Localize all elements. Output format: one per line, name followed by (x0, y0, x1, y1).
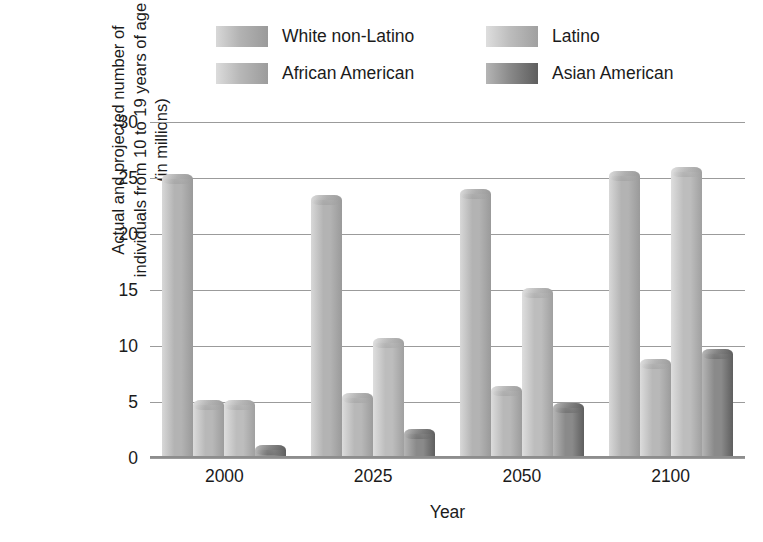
bar-cap-shading (609, 171, 640, 181)
legend-label-white-non-latino: White non-Latino (282, 28, 414, 46)
bar-body (640, 364, 671, 458)
bar[interactable] (640, 359, 671, 458)
bar[interactable] (311, 195, 342, 458)
bar-body (491, 391, 522, 458)
y-tick-label-25: 25 (119, 168, 138, 189)
bar[interactable] (193, 400, 224, 458)
bars-layer (150, 122, 745, 458)
plot-area (150, 122, 745, 458)
bar[interactable] (460, 189, 491, 458)
bar-body (224, 405, 255, 458)
bar-group-2100 (609, 122, 733, 458)
bar-body (311, 200, 342, 458)
bar[interactable] (522, 288, 553, 458)
chart-legend: White non-Latino Latino African American… (216, 18, 716, 92)
bar[interactable] (671, 167, 702, 458)
legend-swatch-white-non-latino (216, 26, 268, 47)
bar[interactable] (609, 171, 640, 458)
bar-cap-shading (640, 359, 671, 369)
legend-item-white-non-latino: White non-Latino (216, 26, 486, 47)
x-axis-tick-labels: 2000202520502100 (150, 466, 745, 496)
legend-item-latino: Latino (486, 26, 716, 47)
y-tick-label-5: 5 (128, 392, 138, 413)
bar-cap-shading (671, 167, 702, 177)
legend-label-asian-american: Asian American (552, 65, 674, 83)
legend-item-asian-american: Asian American (486, 63, 716, 84)
bar-cap-shading (342, 393, 373, 403)
x-tick-label-2000: 2000 (205, 466, 244, 487)
bar-body (460, 194, 491, 458)
bar-cap-shading (224, 400, 255, 410)
bar-cap-shading (255, 445, 286, 455)
bar-body (671, 172, 702, 458)
bar-body (609, 176, 640, 458)
legend-item-african-american: African American (216, 63, 486, 84)
x-tick-label-2100: 2100 (651, 466, 690, 487)
bar-body (162, 179, 193, 458)
x-tick-label-2050: 2050 (502, 466, 541, 487)
bar-body (522, 293, 553, 458)
bar-cap-shading (702, 349, 733, 359)
bar-cap-shading (193, 400, 224, 410)
y-tick-label-0: 0 (128, 448, 138, 469)
bar-body (553, 408, 584, 458)
bar-cap-shading (460, 189, 491, 199)
bar[interactable] (702, 349, 733, 458)
bar-cap-shading (311, 195, 342, 205)
bar-cap-shading (404, 429, 435, 439)
legend-label-latino: Latino (552, 28, 600, 46)
bar-group-2025 (311, 122, 435, 458)
bar-chart-figure: White non-Latino Latino African American… (0, 0, 763, 542)
bar-body (373, 343, 404, 458)
bar[interactable] (373, 338, 404, 458)
bar-cap-shading (491, 386, 522, 396)
bar-body (702, 354, 733, 458)
bar-cap-shading (373, 338, 404, 348)
bar[interactable] (553, 403, 584, 458)
bar-cap-shading (553, 403, 584, 413)
y-tick-label-30: 30 (119, 112, 138, 133)
y-tick-label-15: 15 (119, 280, 138, 301)
bar-body (193, 405, 224, 458)
legend-swatch-latino (486, 26, 538, 47)
x-axis-baseline (150, 456, 745, 458)
bar-body (342, 398, 373, 458)
y-tick-label-20: 20 (119, 224, 138, 245)
bar[interactable] (162, 174, 193, 458)
y-tick-label-10: 10 (119, 336, 138, 357)
bar[interactable] (404, 429, 435, 458)
bar[interactable] (491, 386, 522, 458)
y-axis-tick-labels: 051015202530 (100, 122, 144, 458)
bar[interactable] (342, 393, 373, 458)
gridline-0 (150, 458, 745, 459)
bar-cap-shading (162, 174, 193, 184)
legend-label-african-american: African American (282, 65, 414, 83)
bar-group-2050 (460, 122, 584, 458)
x-axis-title: Year (150, 502, 745, 523)
bar[interactable] (224, 400, 255, 458)
bar-cap-shading (522, 288, 553, 298)
bar-group-2000 (162, 122, 286, 458)
x-tick-label-2025: 2025 (354, 466, 393, 487)
legend-swatch-asian-american (486, 63, 538, 84)
legend-swatch-african-american (216, 63, 268, 84)
